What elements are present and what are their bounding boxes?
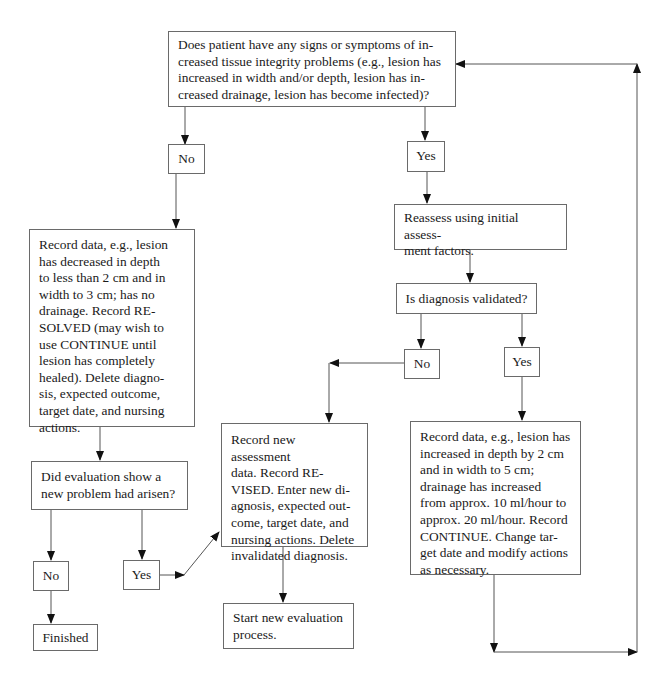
finished-label: Finished bbox=[42, 630, 88, 645]
record-resolved-text: Record data, e.g., lesion has decreased … bbox=[39, 237, 185, 436]
record-revised-text: Record new assessment data. Record RE- V… bbox=[231, 432, 358, 565]
new-problem-question-text: Did evaluation show a new problem had ar… bbox=[41, 469, 178, 502]
tissue-question-no-label: No bbox=[178, 151, 194, 166]
validated-no-box: No bbox=[404, 349, 440, 379]
validated-yes-label: Yes bbox=[512, 354, 531, 369]
record-resolved-box: Record data, e.g., lesion has decreased … bbox=[29, 229, 195, 427]
start-new-evaluation-box: Start new evaluation process. bbox=[223, 603, 354, 649]
validated-no-label: No bbox=[414, 356, 430, 371]
record-revised-box: Record new assessment data. Record RE- V… bbox=[221, 423, 368, 547]
diagnosis-validated-question-box: Is diagnosis validated? bbox=[396, 283, 537, 314]
tissue-integrity-question-box: Does patient have any signs or symptoms … bbox=[168, 31, 456, 107]
record-continue-box: Record data, e.g., lesion has increased … bbox=[410, 421, 581, 575]
tissue-question-no-box: No bbox=[168, 144, 205, 174]
new-problem-question-box: Did evaluation show a new problem had ar… bbox=[31, 461, 188, 510]
tissue-question-yes-label: Yes bbox=[416, 148, 435, 163]
finished-box: Finished bbox=[33, 624, 98, 651]
reassess-box: Reassess using initial assess- ment fact… bbox=[394, 204, 567, 250]
record-continue-text: Record data, e.g., lesion has increased … bbox=[420, 429, 571, 578]
diagnosis-validated-question-text: Is diagnosis validated? bbox=[406, 291, 528, 306]
tissue-question-yes-box: Yes bbox=[407, 141, 445, 172]
new-problem-no-label: No bbox=[43, 568, 59, 583]
new-problem-no-box: No bbox=[33, 561, 69, 591]
start-new-evaluation-text: Start new evaluation process. bbox=[233, 610, 344, 643]
tissue-integrity-question-text: Does patient have any signs or symptoms … bbox=[178, 37, 446, 103]
new-problem-yes-label: Yes bbox=[132, 567, 151, 582]
validated-yes-box: Yes bbox=[504, 347, 540, 377]
new-problem-yes-box: Yes bbox=[123, 560, 160, 590]
reassess-text: Reassess using initial assess- ment fact… bbox=[404, 210, 557, 260]
